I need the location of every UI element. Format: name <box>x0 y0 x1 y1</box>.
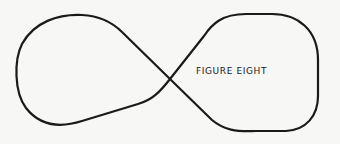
figure-eight-diagram: FIGURE EIGHT <box>0 0 340 144</box>
diagram-label: FIGURE EIGHT <box>196 66 267 76</box>
figure-eight-path <box>16 14 318 131</box>
